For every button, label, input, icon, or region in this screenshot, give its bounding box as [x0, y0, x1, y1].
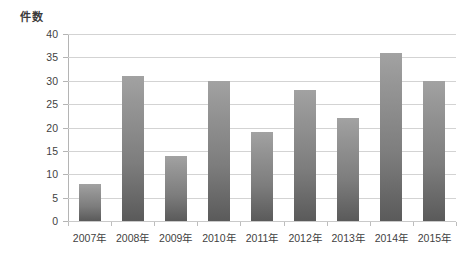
- bar[interactable]: [208, 81, 230, 221]
- y-tick-label: 35: [18, 51, 58, 63]
- y-tick-mark: [63, 57, 68, 58]
- y-tick-label: 30: [18, 75, 58, 87]
- bar-slot: [240, 34, 283, 221]
- bar-slot: [154, 34, 197, 221]
- bar[interactable]: [294, 90, 316, 221]
- bar[interactable]: [122, 76, 144, 221]
- y-tick-mark: [63, 34, 68, 35]
- bar[interactable]: [423, 81, 445, 221]
- gridline: [68, 221, 456, 222]
- y-tick-mark: [63, 128, 68, 129]
- x-tick-mark: [284, 222, 285, 226]
- y-tick-mark: [63, 81, 68, 82]
- x-tick-mark: [456, 222, 457, 226]
- bar-slot: [370, 34, 413, 221]
- bar-slot: [413, 34, 456, 221]
- x-tick-label: 2015年: [407, 230, 461, 245]
- y-tick-label: 40: [18, 28, 58, 40]
- bar-slot: [327, 34, 370, 221]
- y-tick-label: 15: [18, 145, 58, 157]
- bar-slot: [197, 34, 240, 221]
- y-axis-label: 件数: [20, 8, 43, 24]
- x-tick-mark: [370, 222, 371, 226]
- x-tick-mark: [154, 222, 155, 226]
- x-tick-mark: [68, 222, 69, 226]
- bars-layer: [68, 34, 456, 221]
- y-tick-mark: [63, 104, 68, 105]
- y-tick-mark: [63, 174, 68, 175]
- x-tick-mark: [111, 222, 112, 226]
- x-tick-mark: [413, 222, 414, 226]
- bar[interactable]: [165, 156, 187, 221]
- bar[interactable]: [337, 118, 359, 221]
- plot-area: [68, 34, 456, 221]
- bar[interactable]: [79, 184, 101, 221]
- bar-slot: [111, 34, 154, 221]
- y-tick-label: 25: [18, 98, 58, 110]
- bar-chart: 件数 0510152025303540 2007年2008年2009年2010年…: [0, 0, 470, 260]
- x-tick-mark: [240, 222, 241, 226]
- x-tick-mark: [327, 222, 328, 226]
- bar[interactable]: [251, 132, 273, 221]
- y-tick-mark: [63, 151, 68, 152]
- x-tick-mark: [197, 222, 198, 226]
- y-tick-mark: [63, 198, 68, 199]
- bar-slot: [68, 34, 111, 221]
- y-tick-label: 5: [18, 192, 58, 204]
- y-tick-label: 0: [18, 215, 58, 227]
- y-tick-label: 20: [18, 122, 58, 134]
- y-tick-label: 10: [18, 168, 58, 180]
- bar-slot: [284, 34, 327, 221]
- bar[interactable]: [380, 53, 402, 221]
